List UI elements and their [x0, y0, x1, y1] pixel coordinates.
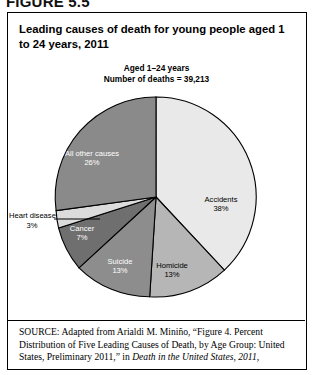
source-line-3-italic: Death in the United States, 2011,: [132, 351, 259, 362]
source-line-2: Distribution of Five Leading Causes of D…: [19, 339, 285, 350]
source-line-3-pre: States, Preliminary 2011,” in: [19, 351, 132, 362]
source-divider: [8, 320, 305, 321]
source-note: SOURCE: Adapted from Arialdi M. Miniño, …: [19, 326, 297, 364]
chart-subtitle-deaths: Number of deaths = 39,213: [8, 74, 305, 85]
chart-subtitle: Aged 1–24 years Number of deaths = 39,21…: [8, 63, 305, 84]
source-line-1: Adapted from Arialdi M. Miniño, “Figure …: [60, 326, 263, 337]
source-lead-in: SOURCE:: [19, 326, 60, 337]
pie-chart: Accidents 38% Homicide 13% Suicide 13% C…: [8, 89, 305, 319]
pie-chart-svg: [8, 89, 305, 319]
figure-number: FIGURE 5.5: [6, 0, 90, 10]
pie-slice-all-other-causes[interactable]: [55, 97, 156, 211]
figure-box: Leading causes of death for young people…: [7, 12, 307, 370]
figure-title: Leading causes of death for young people…: [19, 22, 291, 51]
chart-subtitle-age: Aged 1–24 years: [8, 63, 305, 74]
